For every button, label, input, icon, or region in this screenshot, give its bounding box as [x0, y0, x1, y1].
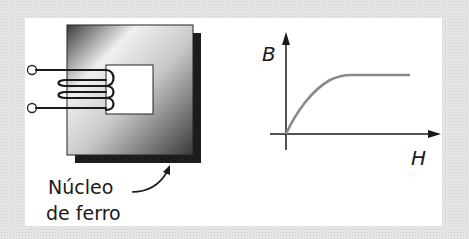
core-label-line1: Núcleo — [48, 178, 113, 197]
x-axis-arrow-icon — [428, 130, 441, 138]
pointer-arrow-icon — [132, 165, 170, 192]
iron-core — [67, 25, 193, 155]
y-axis-label: B — [262, 44, 276, 64]
x-axis-label: H — [411, 148, 426, 168]
bh-graph — [270, 32, 441, 150]
core-label-line2: de ferro — [46, 204, 121, 223]
y-axis-arrow-icon — [282, 32, 290, 45]
saturation-curve — [286, 75, 410, 134]
